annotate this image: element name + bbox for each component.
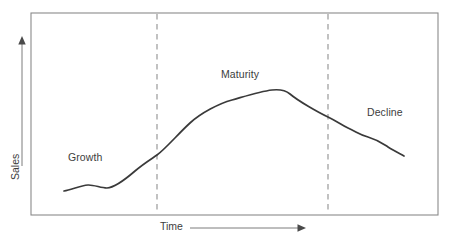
stage-label-maturity: Maturity bbox=[221, 69, 259, 80]
sales-curve bbox=[64, 90, 404, 191]
stage-label-decline: Decline bbox=[367, 107, 403, 118]
arrow-right-icon bbox=[298, 224, 307, 232]
product-lifecycle-diagram: Sales Time Growth Maturity Decline bbox=[0, 0, 455, 245]
x-axis-label: Time bbox=[160, 221, 183, 232]
lifecycle-chart-canvas bbox=[0, 0, 455, 245]
arrow-up-icon bbox=[18, 36, 25, 45]
y-axis-label-text: Sales bbox=[10, 168, 21, 180]
y-axis-label: Sales bbox=[10, 156, 21, 168]
stage-label-growth: Growth bbox=[68, 152, 102, 163]
